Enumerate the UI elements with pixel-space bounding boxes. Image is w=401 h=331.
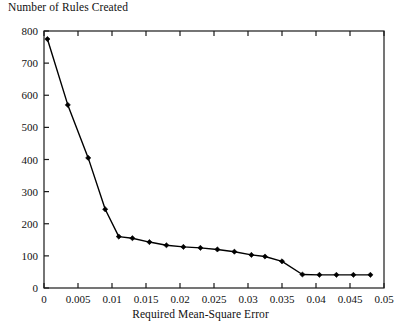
x-axis-label: Required Mean-Square Error	[0, 308, 401, 320]
y-tick-label: 100	[22, 250, 39, 262]
x-tick-label: 0.04	[306, 293, 326, 305]
x-tick-label: 0.02	[170, 293, 189, 305]
x-tick-label: 0.045	[338, 293, 363, 305]
y-tick-label: 800	[22, 25, 39, 37]
chart-container: Number of Rules Created 0100200300400500…	[0, 0, 401, 331]
x-tick-label: 0.03	[238, 293, 258, 305]
x-tick-label: 0.01	[102, 293, 121, 305]
y-tick-label: 400	[22, 154, 39, 166]
y-tick-label: 200	[22, 218, 39, 230]
line-chart-plot: 0100200300400500600700800 00.0050.010.01…	[0, 0, 401, 331]
y-tick-label: 500	[22, 121, 39, 133]
y-tick-label: 700	[22, 57, 39, 69]
y-tick-label: 600	[22, 89, 39, 101]
y-tick-label: 300	[22, 186, 39, 198]
x-tick-label: 0.025	[202, 293, 227, 305]
x-tick-label: 0.035	[270, 293, 295, 305]
x-tick-label: 0.005	[66, 293, 91, 305]
x-tick-label: 0.05	[374, 293, 394, 305]
x-tick-label: 0	[41, 293, 47, 305]
x-tick-label: 0.015	[134, 293, 159, 305]
y-tick-label: 0	[33, 282, 39, 294]
